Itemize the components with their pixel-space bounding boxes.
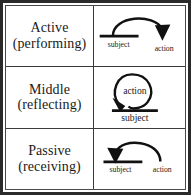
row-figure-active: subject action (94, 6, 186, 67)
row-label-middle-line1: Middle (6, 82, 93, 98)
active-voice-svg: subject action (94, 6, 185, 66)
figure-label-action-active: action (155, 44, 174, 53)
label-stack-middle: Middle (reflecting) (6, 82, 93, 113)
passive-voice-figure: subject action (94, 129, 185, 189)
figure-label-subject-passive: subject (110, 165, 133, 174)
table-row-passive: Passive (receiving) (6, 128, 185, 189)
row-label-passive-line1: Passive (6, 143, 93, 159)
diagram-inner-frame: Active (performing) (5, 5, 186, 190)
active-voice-figure: subject action (94, 6, 185, 66)
row-label-active-line2: (performing) (6, 36, 93, 52)
table-row-middle: Middle (reflecting) (6, 67, 185, 129)
voice-table: Active (performing) (6, 6, 185, 189)
diagram-outer-frame: Active (performing) (0, 0, 191, 195)
passive-voice-svg: subject action (94, 129, 185, 189)
row-label-active-line1: Active (6, 20, 93, 36)
middle-voice-svg: action subject (94, 67, 185, 128)
figure-label-subject-middle: subject (121, 112, 149, 123)
row-label-active: Active (performing) (6, 6, 94, 67)
arrowhead-down-icon (155, 24, 171, 40)
figure-label-subject-active: subject (108, 40, 131, 49)
action-arc-icon (113, 19, 162, 36)
label-stack-passive: Passive (receiving) (6, 143, 93, 174)
row-figure-middle: action subject (94, 67, 186, 129)
row-label-passive: Passive (receiving) (6, 128, 94, 189)
figure-label-action-middle: action (123, 85, 147, 96)
label-stack-active: Active (performing) (6, 20, 93, 51)
row-label-middle-line2: (reflecting) (6, 97, 93, 113)
table-row-active: Active (performing) (6, 6, 185, 67)
middle-voice-figure: action subject (94, 67, 185, 128)
row-label-middle: Middle (reflecting) (6, 67, 94, 129)
row-figure-passive: subject action (94, 128, 186, 189)
row-label-passive-line2: (receiving) (6, 159, 93, 175)
action-arc-icon (116, 143, 161, 162)
figure-label-action-passive: action (153, 165, 172, 174)
